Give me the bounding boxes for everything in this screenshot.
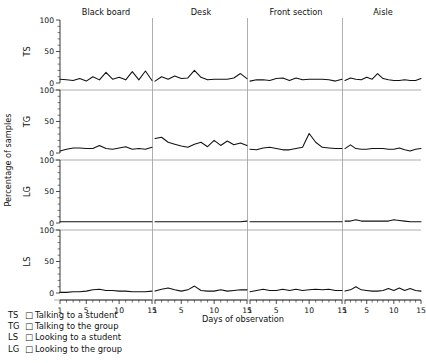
data-group [60, 70, 421, 292]
y-ticklabel-tg-100: 100 [40, 86, 55, 95]
x-ticklabel-4-5: 5 [364, 306, 369, 315]
legend-text-ts: Talking to a student [34, 310, 118, 320]
y-ticklabel-lg-50: 50 [44, 187, 54, 196]
axes-group: Black boardDeskFront sectionAisle100500T… [22, 7, 421, 300]
legend-text-lg: Looking to the group [35, 344, 122, 354]
x-axis-title: Days of observation [202, 314, 284, 324]
series-ls-aisle [345, 287, 421, 291]
y-axis-title: Percentage of samples [3, 113, 13, 206]
row-label-ts: TS [22, 46, 32, 57]
y-ticklabel-ts-50: 50 [44, 47, 54, 56]
series-ts-desk [155, 70, 247, 81]
series-ts-front-section [250, 78, 342, 81]
y-ticklabel-ls-50: 50 [44, 257, 54, 266]
series-ls-black-board [60, 289, 152, 292]
legend-code-ts: TS [7, 310, 18, 320]
legend-symbol-ts: □ [25, 310, 33, 320]
series-tg-aisle [345, 145, 421, 151]
x-ticklabel-4-1: 1 [343, 306, 348, 315]
column-header-front-section: Front section [270, 7, 323, 17]
series-lg-aisle [345, 220, 421, 222]
row-label-ls: LS [22, 257, 32, 267]
y-ticklabel-tg-50: 50 [44, 117, 54, 126]
column-header-black-board: Black board [82, 7, 130, 17]
figure-container: Black boardDeskFront sectionAisle100500T… [0, 0, 426, 363]
series-tg-front-section [250, 133, 342, 149]
y-ticklabel-ls-100: 100 [40, 226, 55, 235]
row-label-tg: TG [22, 116, 32, 128]
legend-group: TS□Talking to a studentTG□Talking to the… [7, 310, 122, 354]
x-ticklabel-2-5: 5 [179, 306, 184, 315]
series-tg-desk [155, 137, 247, 147]
series-tg-black-board [60, 145, 152, 151]
series-ts-aisle [345, 74, 421, 81]
series-ls-desk [155, 286, 247, 291]
series-ts-black-board [60, 71, 152, 81]
y-ticklabel-ls-0: 0 [49, 289, 54, 298]
legend-symbol-ls: □ [25, 332, 33, 342]
y-ticklabel-lg-100: 100 [40, 156, 55, 165]
series-ls-front-section [250, 289, 342, 292]
legend-code-tg: TG [7, 321, 20, 331]
legend-symbol-lg: □ [25, 344, 33, 354]
legend-symbol-tg: □ [25, 321, 33, 331]
axis-titles-group: Percentage of samplesDays of observation [3, 113, 284, 324]
legend-code-lg: LG [8, 344, 19, 354]
legend-text-ls: Looking to a student [35, 332, 122, 342]
legend-code-ls: LS [8, 332, 18, 342]
row-label-lg: LG [22, 186, 32, 197]
multi-panel-line-chart: Black boardDeskFront sectionAisle100500T… [0, 0, 426, 363]
series-lg-desk [155, 221, 247, 222]
x-ticklabel-4-15: 15 [416, 306, 426, 315]
x-ticklabel-3-10: 10 [304, 306, 314, 315]
y-ticklabel-ts-100: 100 [40, 16, 55, 25]
legend-text-tg: Talking to the group [34, 321, 118, 331]
x-ticklabel-2-1: 1 [153, 306, 158, 315]
column-header-desk: Desk [191, 7, 212, 17]
x-ticklabel-4-10: 10 [389, 306, 399, 315]
column-header-aisle: Aisle [373, 7, 392, 17]
